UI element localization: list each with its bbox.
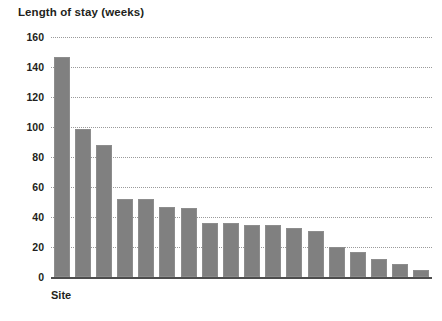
bar [392,264,408,278]
bar [138,199,154,277]
bar [96,145,112,277]
y-axis-tick-label: 120 [26,91,44,103]
bar [265,225,281,278]
bar [159,207,175,278]
bar [223,223,239,277]
bar [75,129,91,278]
y-axis-tick-label: 40 [32,211,44,223]
x-axis-label: Site [51,289,71,301]
plot-area [51,37,432,277]
y-axis-tick-label: 140 [26,61,44,73]
bar-chart: Length of stay (weeks) 16014012010080604… [0,0,442,321]
y-axis-tick-label: 0 [38,271,44,283]
bar [117,199,133,277]
y-axis-tick-label: 160 [26,31,44,43]
bar [181,208,197,277]
y-axis-tick-label: 60 [32,181,44,193]
bar [244,225,260,278]
y-axis-tick-label: 80 [32,151,44,163]
bar [371,259,387,277]
bar [202,223,218,277]
y-axis-tick-label: 20 [32,241,44,253]
bar [350,252,366,278]
bar-series [51,37,432,277]
bar [329,247,345,277]
axis-baseline [51,277,432,279]
bar [308,231,324,278]
y-axis-labels: 160140120100806040200 [0,0,44,321]
y-axis-tick-label: 100 [26,121,44,133]
bar [413,270,429,278]
bar [54,57,70,278]
bar [286,228,302,278]
